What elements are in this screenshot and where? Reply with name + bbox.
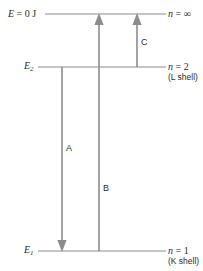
- level-label-n-infinity: n = ∞: [168, 8, 191, 19]
- level-label-e2: E2: [24, 60, 34, 75]
- level-label-n-2-rest: = 2: [173, 61, 189, 72]
- shell-label-k: (K shell): [168, 256, 199, 267]
- diagram-canvas: [0, 0, 203, 271]
- subscript-1: 1: [30, 249, 34, 257]
- level-label-n-2: n = 2: [168, 61, 189, 72]
- level-label-n-1: n = 1: [168, 245, 189, 256]
- level-label-e1: E1: [24, 244, 34, 259]
- level-label-energy-zero-rest: = 0 J: [14, 8, 36, 19]
- subscript-2: 2: [30, 65, 34, 73]
- transition-arrow-c-head: [132, 13, 141, 25]
- transition-label-a: A: [66, 143, 72, 154]
- level-label-n-1-rest: = 1: [173, 245, 189, 256]
- transition-arrow-b-head: [94, 13, 103, 25]
- energy-level-diagram: E = 0 J E2 E1 n = ∞ n = 2 (L shell) n = …: [0, 0, 203, 271]
- shell-label-l: (L shell): [168, 72, 198, 83]
- level-label-n-infinity-rest: = ∞: [173, 8, 191, 19]
- transition-label-c: C: [141, 37, 148, 48]
- transition-label-b: B: [103, 183, 109, 194]
- level-label-energy-zero: E = 0 J: [8, 8, 36, 19]
- transition-arrow-a-head: [57, 240, 66, 252]
